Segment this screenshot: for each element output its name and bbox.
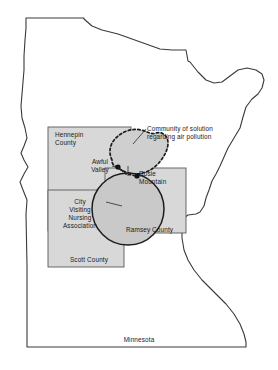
label-state-minnesota: Minnesota: [104, 336, 174, 344]
annotation-nursing-association: City Visiting Nursing Association: [54, 198, 106, 230]
label-rosie-mountain: Rosie Mountain: [139, 170, 181, 186]
label-ramsey-county: Ramsey County: [126, 226, 188, 234]
label-scott-county: Scott County: [58, 256, 120, 264]
label-awful-valley: Awful Valley: [84, 158, 116, 174]
label-hennepin-county: Hennepin County: [55, 131, 83, 147]
annotation-community-of-solution: Community of solution regarding air poll…: [147, 125, 255, 141]
community-of-solution-map: Hennepin County Awful Valley Rosie Mount…: [0, 0, 278, 370]
